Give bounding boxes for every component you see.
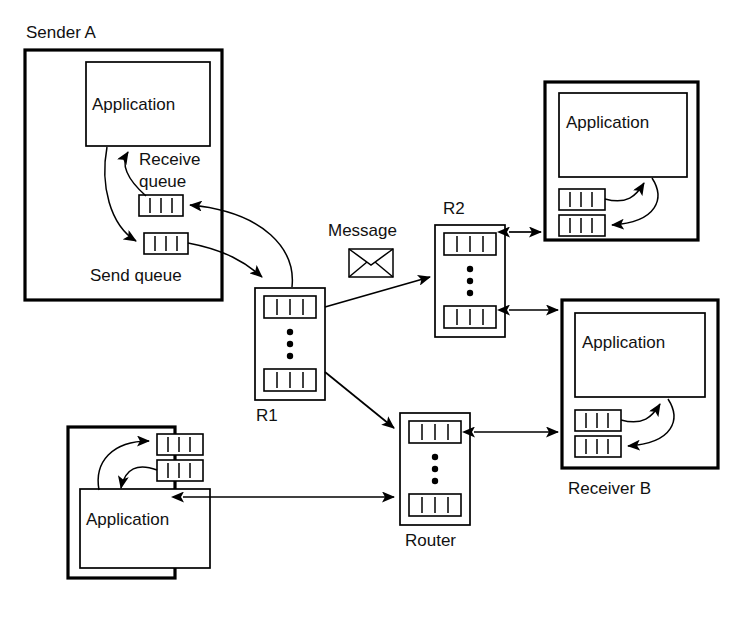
- bottom-left-send-queue[interactable]: [157, 434, 203, 455]
- sender-a-receive-queue[interactable]: [139, 195, 183, 216]
- receiver-b-application-box[interactable]: [575, 313, 705, 397]
- bottom-left-receive-queue[interactable]: [157, 460, 203, 481]
- router-node-r2[interactable]: R2: [435, 199, 505, 337]
- r1-label: R1: [256, 406, 278, 425]
- receive-queue-label-line1: Receive: [139, 150, 200, 169]
- r2-label: R2: [443, 199, 465, 218]
- sender-a-application-label: Application: [92, 95, 175, 114]
- host-receiver-b[interactable]: Application Receiver B: [562, 300, 718, 498]
- message-icon-group: Message: [328, 221, 397, 277]
- router-node-router[interactable]: Router: [400, 413, 470, 550]
- send-queue-label: Send queue: [90, 266, 182, 285]
- r1-queue-top: [264, 296, 316, 318]
- receiver-b-receive-queue[interactable]: [575, 436, 621, 457]
- sender-a-label: Sender A: [26, 23, 97, 42]
- r2-queue-top: [444, 233, 496, 255]
- router-node-r1[interactable]: R1: [255, 288, 325, 425]
- top-right-application-box[interactable]: [559, 93, 687, 177]
- receiver-b-send-queue[interactable]: [575, 410, 621, 431]
- host-top-right[interactable]: Application: [545, 82, 698, 240]
- r1-queue-bottom: [264, 369, 316, 391]
- host-sender-a[interactable]: Sender A Application Receive queue Sen: [25, 23, 222, 300]
- host-bottom-left[interactable]: Application: [68, 427, 210, 578]
- sender-a-send-queue[interactable]: [144, 233, 188, 254]
- bottom-left-application-label: Application: [86, 510, 169, 529]
- message-queue-diagram: Sender A Application Receive queue Sen: [0, 0, 743, 626]
- receive-queue-label-line2: queue: [139, 172, 186, 191]
- diagram-canvas: Sender A Application Receive queue Sen: [0, 0, 743, 626]
- r2-queue-bottom: [444, 306, 496, 328]
- receiver-b-label: Receiver B: [568, 479, 651, 498]
- arrow-r1-to-r2: [325, 277, 430, 307]
- top-right-application-label: Application: [566, 113, 649, 132]
- top-right-receive-queue[interactable]: [559, 215, 605, 236]
- router-label: Router: [405, 531, 456, 550]
- top-right-send-queue[interactable]: [559, 189, 605, 210]
- message-label: Message: [328, 221, 397, 240]
- receiver-b-application-label: Application: [582, 333, 665, 352]
- router-queue-top: [409, 421, 461, 443]
- arrow-r1-to-router: [325, 372, 394, 428]
- router-queue-bottom: [409, 494, 461, 516]
